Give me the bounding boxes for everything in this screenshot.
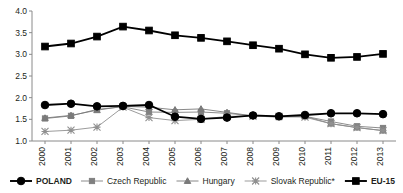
- data-point: [252, 177, 259, 184]
- legend-item-poland: POLAND: [10, 176, 72, 186]
- x-tick-label: 2005: [167, 147, 177, 166]
- data-point: [171, 113, 179, 121]
- x-tick-label: 2002: [89, 147, 99, 166]
- line-chart: 1.01.52.02.53.03.54.0 200020012002200320…: [0, 0, 403, 193]
- data-point: [223, 114, 231, 122]
- x-tick-label: 2012: [349, 147, 359, 166]
- x-tick-label: 2001: [63, 147, 73, 166]
- y-tick-label: 4.0: [15, 6, 27, 16]
- data-point: [301, 111, 309, 119]
- data-point: [353, 178, 360, 185]
- x-tick-label: 2000: [37, 147, 47, 166]
- data-point: [93, 103, 101, 111]
- data-point: [380, 51, 387, 58]
- y-tick-label: 2.5: [15, 71, 27, 81]
- data-series-group: [41, 23, 387, 135]
- data-point: [353, 124, 360, 131]
- x-axis: 2000200120022003200420052006200720082009…: [32, 141, 396, 166]
- data-point: [41, 128, 48, 135]
- data-point: [379, 110, 387, 118]
- x-tick-label: 2004: [141, 147, 151, 166]
- data-point: [120, 23, 127, 30]
- data-point: [67, 127, 74, 134]
- data-point: [89, 178, 94, 183]
- data-point: [172, 32, 179, 39]
- data-point: [250, 42, 257, 49]
- data-point: [67, 100, 75, 108]
- data-point: [328, 55, 335, 62]
- data-point: [353, 109, 361, 117]
- data-point: [146, 109, 151, 114]
- data-point: [327, 109, 335, 117]
- legend-label: Hungary: [203, 176, 236, 186]
- data-point: [354, 54, 361, 61]
- data-point: [224, 38, 231, 45]
- data-point: [197, 115, 205, 123]
- legend-item-slovak-republic: Slovak Republic*: [245, 176, 336, 186]
- data-point: [146, 27, 153, 34]
- data-point: [145, 101, 153, 109]
- legend-label: Slovak Republic*: [271, 176, 336, 186]
- data-point: [17, 177, 25, 185]
- data-point: [42, 43, 49, 50]
- data-point: [68, 40, 75, 47]
- data-point: [94, 33, 101, 40]
- data-point: [119, 102, 127, 110]
- data-point: [93, 124, 100, 131]
- data-point: [379, 127, 386, 134]
- legend-item-eu-15: EU-15: [345, 176, 395, 186]
- data-point: [327, 120, 334, 127]
- data-point: [302, 51, 309, 58]
- y-tick-label: 1.5: [15, 114, 27, 124]
- legend-item-czech-republic: Czech Republic: [81, 176, 167, 186]
- x-tick-label: 2013: [375, 147, 385, 166]
- x-tick-label: 2007: [219, 147, 229, 166]
- y-axis: 1.01.52.02.53.03.54.0: [15, 6, 32, 146]
- y-tick-label: 3.5: [15, 28, 27, 38]
- y-tick-label: 2.0: [15, 93, 27, 103]
- series-line: [45, 27, 383, 58]
- x-tick-label: 2009: [271, 147, 281, 166]
- data-point: [198, 35, 205, 42]
- chart-canvas: 1.01.52.02.53.03.54.0 200020012002200320…: [0, 0, 403, 193]
- x-tick-label: 2010: [297, 147, 307, 166]
- y-tick-label: 1.0: [15, 136, 27, 146]
- legend-label: Czech Republic: [107, 176, 167, 186]
- data-point: [145, 114, 152, 121]
- legend-item-hungary: Hungary: [177, 176, 236, 186]
- legend-label: POLAND: [36, 176, 72, 186]
- data-point: [198, 106, 205, 112]
- x-tick-label: 2011: [323, 147, 333, 166]
- data-point: [275, 113, 283, 121]
- y-tick-label: 3.0: [15, 49, 27, 59]
- data-point: [41, 101, 49, 109]
- x-tick-label: 2006: [193, 147, 203, 166]
- x-tick-label: 2003: [115, 147, 125, 166]
- legend-label: EU-15: [371, 176, 395, 186]
- data-point: [249, 112, 257, 120]
- chart-legend: POLANDCzech RepublicHungarySlovak Republ…: [10, 176, 395, 186]
- data-point: [276, 45, 283, 52]
- series-eu-15: [42, 23, 387, 61]
- x-tick-label: 2008: [245, 147, 255, 166]
